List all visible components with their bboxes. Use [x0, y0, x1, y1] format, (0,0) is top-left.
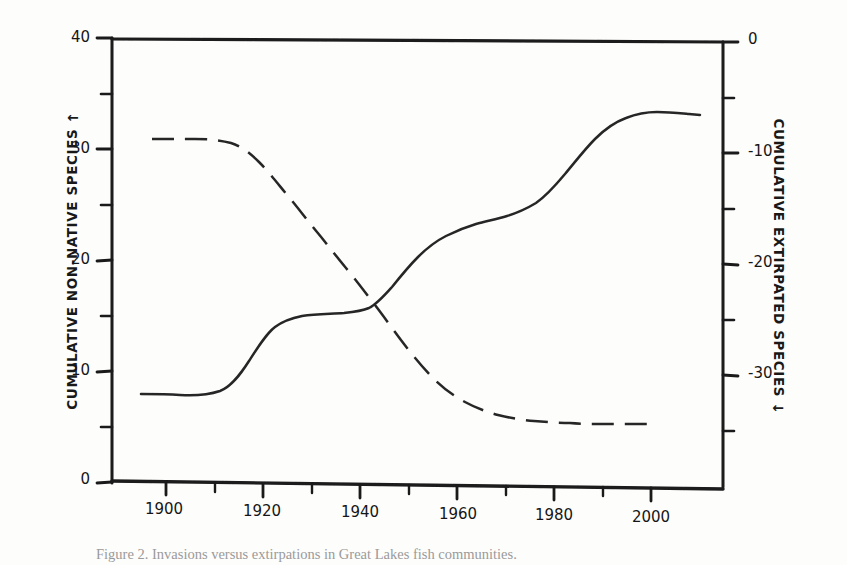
- x-tick-1940: 1940: [330, 503, 390, 521]
- chart-canvas: [0, 0, 847, 565]
- x-tick-1960: 1960: [428, 505, 488, 523]
- y-left-tick-10: 10: [44, 361, 90, 379]
- x-axis-ticks: [166, 482, 651, 501]
- y-left-tick-0: 0: [44, 470, 90, 488]
- y-right-tick-0: 0: [748, 30, 800, 48]
- y-left-ticks: [97, 38, 112, 483]
- down-arrow-icon: ↓: [770, 397, 786, 414]
- chart-figure: CUMULATIVE NON-NATIVE SPECIES↑ CUMULATIV…: [0, 0, 847, 565]
- figure-page: CUMULATIVE NON-NATIVE SPECIES↑ CUMULATIV…: [0, 0, 847, 565]
- x-tick-1920: 1920: [232, 502, 292, 520]
- series-extirpated-species: [152, 139, 648, 424]
- up-arrow-icon: ↑: [65, 111, 81, 128]
- y-left-tick-30: 30: [44, 139, 90, 157]
- y-left-tick-40: 40: [44, 28, 90, 46]
- y-right-ticks: [723, 42, 738, 431]
- x-tick-2000: 2000: [621, 508, 681, 526]
- x-tick-1980: 1980: [524, 506, 584, 524]
- y-right-tick-minus30: -30: [748, 364, 800, 382]
- y-left-tick-20: 20: [44, 250, 90, 268]
- series-non-native-species: [141, 112, 700, 395]
- figure-caption: Figure 2. Invasions versus extirpations …: [96, 545, 796, 565]
- x-tick-1900: 1900: [134, 500, 194, 518]
- y-right-tick-minus20: -20: [748, 253, 800, 271]
- axis-frame: [112, 38, 723, 489]
- y-right-tick-minus10: -10: [748, 142, 800, 160]
